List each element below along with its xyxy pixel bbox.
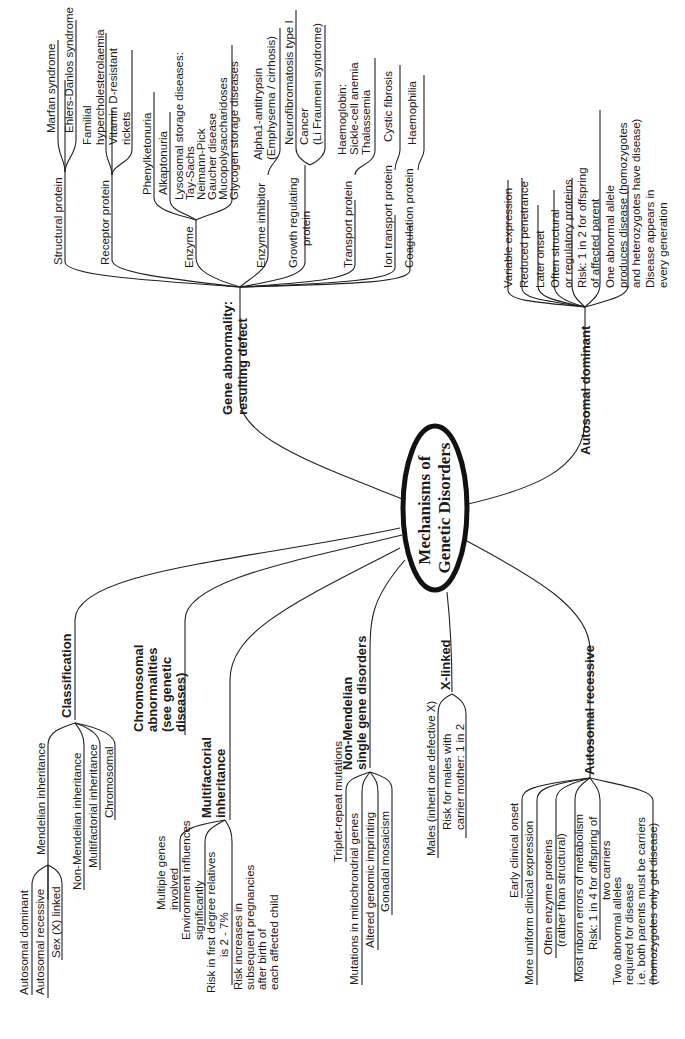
ad-reduced-penetrance: Reduced penetrance — [518, 181, 530, 288]
branch-x-linked: X-linked Males (inherit one defective X)… — [425, 639, 466, 858]
gene-abnormality-title-1: Gene abnormality: — [220, 301, 235, 415]
branch-non-mendelian: Non-Mendelian single gene disorders Trip… — [332, 636, 392, 985]
triplet-repeat-mutations: Triplet-repeat mutations — [332, 741, 344, 862]
sickle-cell-anemia: Sickle-cell anemia — [348, 62, 360, 155]
svg-text:Environment influences s: Environment influences significantly — [180, 817, 205, 940]
branch-gene-abnormality: Gene abnormality: resulting defect Struc… — [45, 7, 424, 415]
svg-text:Growth regulating protei: Growth regulating protein — [287, 174, 312, 268]
x-linked-risk-1: Risk for males with — [441, 734, 453, 831]
li-fraumeni-syndrome: (Li Fraumeni syndrome) — [311, 23, 323, 145]
ad-risk-1: Risk: 1 in 2 for offspring — [576, 167, 588, 288]
alkaptonuria: Alkaptonuria — [157, 130, 169, 195]
multifactorial-title-1: Multifactorial — [199, 737, 214, 818]
alpha1-antitrypsin: Alpha1-antitrypsin — [252, 68, 264, 160]
enzyme-label: Enzyme — [183, 226, 195, 268]
svg-text:Haemoglobin: Sickle-cell: Haemoglobin: Sickle-cell anemia Thalasse… — [336, 59, 372, 155]
mf-risk-increases-1: Risk increases in — [232, 903, 244, 990]
svg-text:Multiple genes involved: Multiple genes involved — [155, 833, 180, 910]
gene-abnormality-title-2: resulting defect — [235, 318, 250, 415]
chromosomal-title-4: diseases) — [173, 673, 188, 732]
glycogen-storage-diseases: Glycogen storage diseases — [228, 61, 240, 200]
ar-two-alleles-1: Two abnormal alleles — [611, 877, 623, 985]
mendelian-sex-linked: Sex (X) linked — [50, 886, 62, 958]
center-node: Mechanisms of Genetic Disorders — [403, 426, 467, 590]
transport-protein-label: Transport protein — [342, 181, 354, 268]
coagulation-protein-label: Coagulation protein — [403, 168, 415, 268]
multifactorial-title-2: inheritance — [213, 749, 228, 818]
branch-classification: Classification Mendelian inheritance Non… — [18, 633, 115, 998]
autosomal-dominant-title: Autosomal dominant — [578, 325, 593, 455]
svg-text:Non-Mendelian single gen: Non-Mendelian single gene disorders — [340, 636, 369, 770]
familial-hypercholesterolaemia-1: Familial — [81, 105, 93, 145]
mf-risk-increases-4: each affected child — [268, 894, 280, 990]
haemoglobin: Haemoglobin: — [336, 84, 348, 155]
ar-early-onset: Early clinical onset — [508, 802, 520, 898]
ar-risk-1: Risk: 1 in 4 for offspring of — [587, 816, 599, 950]
mind-map: Mechanisms of Genetic Disorders Gene abn… — [0, 0, 685, 1039]
ad-one-allele-3: and heterozygotes have disease) — [630, 118, 642, 288]
svg-text:Alpha1-antitrypsin (Emph: Alpha1-antitrypsin (Emphysema / cirrhosi… — [252, 36, 277, 160]
growth-regulating-label-2: protein — [300, 211, 312, 246]
mf-risk-increases-2: subsequent pregnancies — [244, 864, 256, 990]
main-connectors — [75, 287, 590, 820]
mendelian-inheritance-label: Mendelian inheritance — [35, 742, 47, 855]
chromosomal-title-2: abnormalities — [145, 647, 160, 732]
svg-text:Risk in first degree relatives: Risk in first degree relatives is 2 - 7% — [205, 849, 230, 993]
svg-text:Lysosomal storage diseases:: Lysosomal storage diseases: Tay-Sachs Ne… — [173, 49, 240, 200]
mf-environment-2: significantly — [193, 880, 205, 940]
svg-text:Cancer (Li Fraumeni synd: Cancer (Li Fraumeni syndrome) — [298, 23, 323, 145]
genomic-imprinting: Altered genomic imprinting — [364, 812, 376, 948]
structural-protein-label: Structural protein — [52, 177, 64, 265]
ad-variable-expression: Variable expression — [502, 188, 514, 288]
familial-hypercholesterolaemia-2: hypercholesterolaemia — [94, 29, 106, 145]
mf-risk-first-degree-2: is 2 - 7% — [218, 912, 230, 957]
ar-two-alleles-2: required for disease — [623, 883, 635, 985]
svg-text:Gene abnormality: result: Gene abnormality: resulting defect — [220, 297, 250, 415]
cancer: Cancer — [298, 108, 310, 145]
ad-structural-1: Often structural — [549, 209, 561, 288]
neurofibromatosis-type-1: Neurofibromatosis type I — [283, 20, 295, 145]
ad-every-generation-2: every generation — [657, 202, 669, 288]
mf-risk-first-degree-1: Risk in first degree relatives — [205, 852, 217, 993]
mf-risk-increases-3: after birth of — [256, 928, 268, 990]
svg-text:Mechanisms of Genetic Di: Mechanisms of Genetic Disorders — [415, 442, 454, 573]
mf-environment-1: Environment influences — [180, 820, 192, 940]
mf-multiple-genes-1: Multiple genes — [155, 836, 167, 910]
svg-text:Often structural or regu: Often structural or regulatory proteins — [549, 179, 574, 288]
vitamin-d-resistant-2: rickets — [120, 112, 132, 145]
mf-multiple-genes-2: involved — [168, 868, 180, 910]
center-title-line-1: Mechanisms of — [415, 455, 434, 564]
receptor-protein-label: Receptor protein — [99, 180, 111, 265]
chromosomal-title-3: (see genetic — [159, 657, 174, 732]
gonadal-mosaicism: Gonadal mosaicism — [379, 811, 391, 912]
branch-chromosomal: Chromosomal abnormalities (see genetic d… — [131, 641, 188, 732]
svg-text:Familial hypercholestero: Familial hypercholesterolaemia — [81, 29, 106, 145]
ar-enzyme-proteins-2: (rather than structural) — [555, 833, 567, 947]
svg-text:One abnormal allele prod: One abnormal allele produces disease (ho… — [604, 118, 642, 288]
ion-transport-protein-label: Ion transport protein — [382, 165, 394, 268]
mendelian-autosomal-recessive: Autosomal recessive — [34, 889, 46, 995]
branch-autosomal-dominant: Autosomal dominant Variable expression R… — [502, 110, 669, 455]
non-mendelian-inheritance: Non-Mendelian inheritance — [71, 753, 83, 890]
svg-text:Often enzyme proteins (r: Often enzyme proteins (rather than struc… — [542, 833, 567, 955]
autosomal-recessive-title: Autosomal recessive — [582, 645, 597, 775]
svg-text:Disease appears in every: Disease appears in every generation — [644, 186, 669, 288]
x-linked-title: X-linked — [438, 639, 453, 690]
x-linked-risk-2: carrier mother: 1 in 2 — [454, 724, 466, 830]
ar-enzyme-proteins-1: Often enzyme proteins — [542, 839, 554, 955]
branch-autosomal-recessive: Autosomal recessive Early clinical onset… — [508, 645, 659, 985]
x-linked-males: Males (inherit one defective X) — [425, 701, 437, 856]
ar-two-alleles-4: (homozygotes only get disease) — [647, 822, 659, 985]
non-mendelian-title-2: single gene disorders — [354, 636, 369, 770]
classification-title: Classification — [59, 633, 74, 718]
chromosomal-title-1: Chromosomal — [131, 645, 146, 732]
svg-text:Risk: 1 in 2 for offspring: Risk: 1 in 2 for offspring of affected p… — [576, 164, 601, 288]
emphysema-cirrhosis: (Emphysema / cirrhosis) — [265, 36, 277, 160]
marfan-syndrome: Marfan syndrome — [45, 44, 57, 133]
ehlers-danlos-syndrome: Ehlers-Danlos syndrome — [63, 7, 75, 133]
ad-risk-2: of affected parent — [589, 198, 601, 288]
growth-regulating-label-1: Growth regulating — [287, 177, 299, 268]
cystic-fibrosis: Cystic fibrosis — [382, 71, 394, 142]
ad-later-onset: Later onset — [534, 230, 546, 288]
ad-one-allele-1: One abnormal allele — [604, 185, 616, 288]
